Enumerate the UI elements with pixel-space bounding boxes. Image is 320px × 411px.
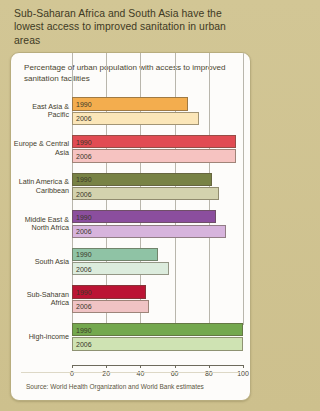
bar-series-label: 1990 [76, 176, 92, 183]
category-label: Sub-Saharan Africa [13, 291, 69, 308]
category-group: High-income19902006 [11, 319, 250, 357]
bar-2006[interactable]: 2006 [72, 187, 219, 200]
tick-20 [106, 365, 107, 368]
chart-card: Percentage of urban population with acce… [10, 52, 251, 401]
bar-2006[interactable]: 2006 [72, 112, 199, 125]
bar-series-label: 1990 [76, 213, 92, 220]
category-label: High-income [13, 333, 69, 342]
category-label: East Asia & Pacific [13, 103, 69, 120]
chart-plot-area: East Asia & Pacific19902006Europe & Cent… [11, 93, 250, 365]
bar-pair: 19902006 [72, 93, 243, 131]
bar-series-label: 1990 [76, 138, 92, 145]
bar-series-label: 2006 [76, 340, 92, 347]
tick-60 [175, 365, 176, 368]
bar-pair: 19902006 [72, 319, 243, 357]
category-group: East Asia & Pacific19902006 [11, 93, 250, 131]
bar-series-label: 2006 [76, 115, 92, 122]
bar-1990[interactable]: 1990 [72, 135, 236, 148]
category-label: Europe & Central Asia [13, 141, 69, 158]
category-group: Europe & Central Asia19902006 [11, 131, 250, 169]
bar-1990[interactable]: 1990 [72, 173, 212, 186]
bar-pair: 19902006 [72, 168, 243, 206]
tick-40 [140, 365, 141, 368]
chart-subtitle: Percentage of urban population with acce… [24, 62, 238, 84]
category-label: Latin America & Caribbean [13, 178, 69, 195]
bar-1990[interactable]: 1990 [72, 210, 216, 223]
category-group: Sub-Saharan Africa19902006 [11, 281, 250, 319]
bar-pair: 19902006 [72, 206, 243, 244]
bar-2006[interactable]: 2006 [72, 337, 243, 350]
tick-100 [243, 365, 244, 368]
bar-2006[interactable]: 2006 [72, 262, 169, 275]
bar-series-label: 1990 [76, 100, 92, 107]
bar-pair: 19902006 [72, 243, 243, 281]
bar-series-label: 2006 [76, 190, 92, 197]
bar-2006[interactable]: 2006 [72, 225, 226, 238]
bar-2006[interactable]: 2006 [72, 149, 236, 162]
footer-divider [21, 372, 240, 373]
bar-pair: 19902006 [72, 281, 243, 319]
bar-series-label: 1990 [76, 288, 92, 295]
bar-series-label: 2006 [76, 228, 92, 235]
bar-pair: 19902006 [72, 131, 243, 169]
bar-series-label: 1990 [76, 326, 92, 333]
category-group: Middle East & North Africa19902006 [11, 206, 250, 244]
page-title: Sub-Saharan Africa and South Asia have t… [14, 7, 246, 47]
bar-1990[interactable]: 1990 [72, 248, 158, 261]
bar-series-label: 2006 [76, 265, 92, 272]
bar-1990[interactable]: 1990 [72, 323, 243, 336]
category-label: Middle East & North Africa [13, 216, 69, 233]
category-group: Latin America & Caribbean19902006 [11, 168, 250, 206]
bar-series-label: 2006 [76, 152, 92, 159]
category-label: South Asia [13, 258, 69, 267]
bar-1990[interactable]: 1990 [72, 97, 188, 110]
tick-80 [209, 365, 210, 368]
bar-2006[interactable]: 2006 [72, 300, 149, 313]
poster-background: Sub-Saharan Africa and South Asia have t… [0, 0, 259, 411]
x-axis-line [72, 365, 243, 366]
bar-series-label: 1990 [76, 251, 92, 258]
category-group: South Asia19902006 [11, 243, 250, 281]
tick-0 [72, 365, 73, 368]
bar-series-label: 2006 [76, 303, 92, 310]
bar-1990[interactable]: 1990 [72, 285, 146, 298]
source-note: Source: World Health Organization and Wo… [26, 382, 238, 391]
